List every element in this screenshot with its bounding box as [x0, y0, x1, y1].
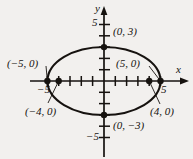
point-bottom-covertex: [101, 112, 107, 118]
label-right-focus: (4, 0): [150, 106, 174, 117]
point-left-focus: [56, 78, 62, 84]
label-top-covertex: (0, 3): [113, 26, 137, 37]
y-tick-label-5: 5: [92, 17, 98, 28]
point-top-covertex: [101, 44, 107, 50]
label-right-vertex: (5, 0): [116, 58, 140, 69]
label-bottom-covertex: (0, −3): [113, 120, 144, 131]
y-tick-label-minus5: −5: [86, 131, 99, 142]
x-axis-label: x: [176, 64, 181, 75]
x-tick-label-5: 5: [161, 84, 167, 95]
x-tick-label-minus5: −5: [37, 84, 50, 95]
y-axis-arrow: [101, 6, 108, 15]
ellipse-figure: y x 5 −5 −5 5 (0, 3) (0, −3) (−5, 0) (5,…: [0, 0, 193, 159]
point-right-focus: [146, 78, 152, 84]
label-left-vertex: (−5, 0): [7, 58, 38, 69]
label-left-focus: (−4, 0): [25, 106, 56, 117]
x-axis-arrow: [180, 78, 189, 85]
y-axis-label: y: [95, 3, 100, 14]
